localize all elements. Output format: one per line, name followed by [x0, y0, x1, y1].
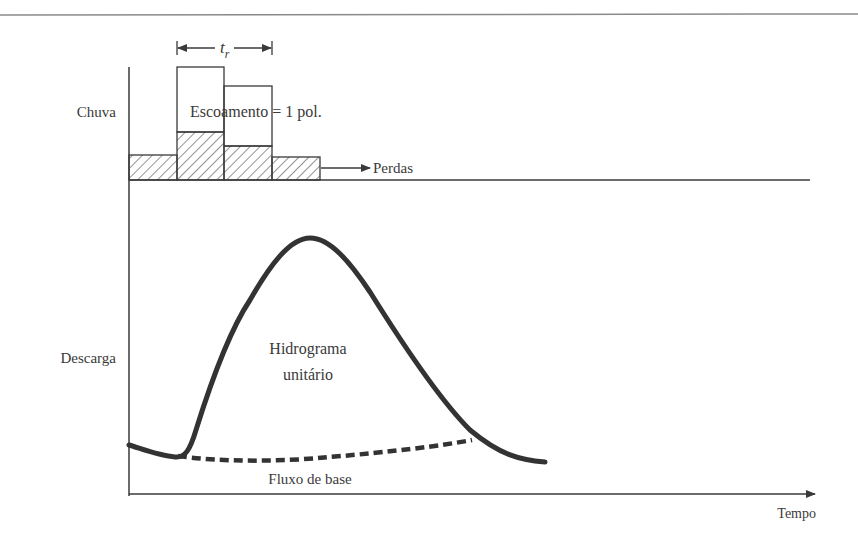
duration-label: tr [220, 38, 230, 61]
hydrograph-label-1: Hidrograma [269, 340, 346, 358]
duration-dimension: tr [177, 38, 272, 61]
top-rule [0, 14, 858, 15]
losses-label: Perdas [373, 160, 413, 176]
baseflow-label: Fluxo de base [268, 471, 352, 487]
time-axis-label: Tempo [777, 506, 816, 521]
runoff-label: Escoamento = 1 pol. [190, 103, 322, 121]
hydrograph-label-2: unitário [283, 366, 333, 383]
baseflow-curve [178, 440, 472, 461]
unit-hydrograph-diagram: tr Chuva Descarga Escoamento = 1 pol. Pe… [0, 0, 858, 544]
rain-axis-label: Chuva [77, 104, 117, 120]
discharge-axis-label: Descarga [60, 350, 116, 366]
